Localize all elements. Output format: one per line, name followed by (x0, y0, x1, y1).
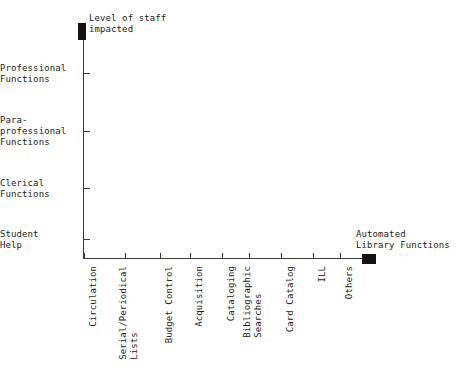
x-tick-serial-periodical-lists (125, 253, 126, 259)
figure-canvas: Level of staff impacted Automated Librar… (0, 0, 465, 371)
x-label-cataloging: Cataloging (226, 266, 237, 321)
y-label-professional: Professional Functions (0, 63, 72, 85)
y-label-student-help: Student Help (0, 229, 72, 251)
x-tick-cataloging (222, 253, 223, 259)
x-label-serial-periodical-lists: Serial/Periodical Lists (118, 266, 140, 360)
x-tick-budget-control (160, 253, 161, 259)
x-label-circulation: Circulation (88, 266, 99, 327)
x-label-others: Others (344, 266, 355, 299)
y-tick-student-help (84, 239, 90, 240)
x-label-bibliographic-searches: Bibliographic Searches (242, 266, 264, 338)
y-label-paraprofessional: Para- professional Functions (0, 115, 72, 148)
x-tick-ill (313, 253, 314, 259)
x-axis-title: Automated Library Functions (356, 229, 450, 251)
x-tick-bibliographic-searches (249, 253, 250, 259)
y-label-professional-wrap: Professional Functions (0, 63, 78, 85)
x-tick-circulation (84, 253, 85, 259)
y-tick-paraprofessional (84, 131, 90, 132)
y-label-clerical-wrap: Clerical Functions (0, 178, 78, 200)
x-tick-card-catalog (281, 253, 282, 259)
y-label-paraprofessional-wrap: Para- professional Functions (0, 115, 78, 148)
x-axis-end-marker (362, 254, 376, 264)
y-axis-top-marker (78, 23, 86, 40)
x-label-card-catalog: Card Catalog (285, 266, 296, 332)
x-label-budget-control: Budget Control (164, 266, 175, 343)
x-tick-others (340, 253, 341, 259)
y-label-clerical: Clerical Functions (0, 178, 72, 200)
y-axis-line (83, 27, 84, 259)
y-tick-clerical (84, 188, 90, 189)
x-tick-acquisition (190, 253, 191, 259)
y-axis-title: Level of staff impacted (89, 13, 166, 35)
x-label-acquisition: Acquisition (194, 266, 205, 327)
x-label-ill: ILL (317, 266, 328, 283)
y-tick-professional (84, 73, 90, 74)
y-label-student-help-wrap: Student Help (0, 229, 78, 251)
